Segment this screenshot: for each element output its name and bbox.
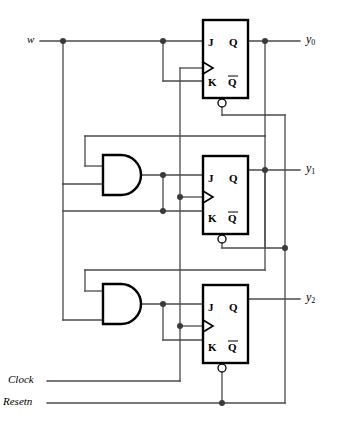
dot-w-to-k0 bbox=[160, 38, 166, 44]
ff1-k-pin: K bbox=[208, 212, 217, 224]
ff0-k-pin: K bbox=[208, 76, 217, 88]
ff0-q-pin: Q bbox=[229, 36, 238, 48]
y1-output-label: y1 bbox=[306, 161, 315, 176]
y0-subscript: 0 bbox=[311, 38, 315, 47]
dot-q0-out bbox=[262, 38, 268, 44]
w-input-label: w bbox=[27, 33, 34, 45]
y2-subscript: 2 bbox=[311, 296, 315, 305]
dot-clock-ff1 bbox=[177, 194, 183, 200]
and-gate-1-body bbox=[103, 155, 141, 195]
and-gates bbox=[103, 155, 141, 324]
reset-bubble-ff2-icon bbox=[218, 364, 226, 372]
dot-and2-out bbox=[160, 301, 166, 307]
wire-layer bbox=[40, 41, 300, 403]
reset-bubble-ff0-icon bbox=[218, 99, 226, 107]
ff2-qbar-pin: Q bbox=[228, 341, 237, 353]
junction-dots bbox=[60, 38, 288, 406]
ff1-qbar-pin: Q bbox=[228, 212, 237, 224]
ff2-j-pin: J bbox=[208, 301, 214, 313]
and-gate-2-body bbox=[103, 284, 141, 324]
dot-q1-out bbox=[262, 167, 268, 173]
dot-q1-feedback bbox=[282, 245, 288, 251]
ff0-j-pin: J bbox=[208, 36, 214, 48]
dot-and1-out bbox=[160, 172, 166, 178]
clock-input-label: Clock bbox=[8, 373, 34, 385]
resetn-input-label: Resetn bbox=[3, 395, 32, 407]
circuit-schematic-svg: J Q K Q J Q K Q J Q K Q bbox=[0, 0, 346, 423]
ff0-qbar-pin: Q bbox=[228, 76, 237, 88]
ff1-q-pin: Q bbox=[229, 172, 238, 184]
y1-subscript: 1 bbox=[311, 167, 315, 176]
dot-resetn-bus bbox=[219, 400, 225, 406]
y2-output-label: y2 bbox=[306, 290, 315, 305]
ff2-k-pin: K bbox=[208, 341, 217, 353]
dot-k1-line bbox=[160, 208, 166, 214]
dot-w-branch bbox=[60, 38, 66, 44]
reset-bubble-ff1-icon bbox=[218, 235, 226, 243]
ff1-j-pin: J bbox=[208, 172, 214, 184]
y0-output-label: y0 bbox=[306, 32, 315, 47]
dot-clock-ff2 bbox=[177, 323, 183, 329]
circuit-diagram-canvas: J Q K Q J Q K Q J Q K Q w Clock Resetn y… bbox=[0, 0, 346, 423]
ff2-q-pin: Q bbox=[229, 301, 238, 313]
